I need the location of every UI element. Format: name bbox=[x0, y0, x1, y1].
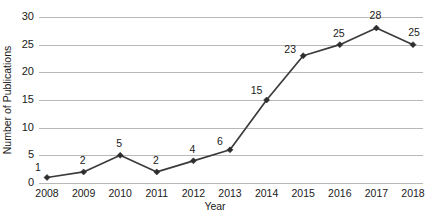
x-tick-label: 2017 bbox=[365, 187, 389, 199]
x-tick-label: 2016 bbox=[328, 187, 352, 199]
data-point-label: 28 bbox=[370, 9, 382, 21]
x-axis-title: Year bbox=[204, 200, 226, 212]
x-tick-label: 2015 bbox=[292, 187, 316, 199]
x-tick-label: 2012 bbox=[182, 187, 206, 199]
x-tick-label: 2018 bbox=[401, 187, 425, 199]
y-tick-label: 0 bbox=[28, 176, 34, 188]
x-tick-label: 2008 bbox=[35, 187, 59, 199]
data-point-marker bbox=[154, 169, 160, 175]
data-point-label: 6 bbox=[217, 135, 223, 147]
x-tick-label: 2010 bbox=[109, 187, 133, 199]
data-point-label: 23 bbox=[284, 43, 296, 55]
data-point-label: 2 bbox=[153, 154, 159, 166]
data-point-marker bbox=[81, 169, 87, 175]
data-point-label: 2 bbox=[80, 154, 86, 166]
data-point-marker bbox=[117, 152, 123, 158]
data-point-label: 25 bbox=[408, 26, 420, 38]
data-point-marker bbox=[44, 174, 50, 180]
y-tick-label: 20 bbox=[22, 65, 34, 77]
y-axis-title: Number of Publications bbox=[1, 46, 13, 155]
gridlines-group bbox=[39, 18, 423, 184]
y-tick-label: 15 bbox=[22, 93, 34, 105]
x-tick-label: 2009 bbox=[72, 187, 96, 199]
data-point-label: 5 bbox=[116, 137, 122, 149]
data-point-markers bbox=[44, 25, 416, 180]
y-tick-label: 30 bbox=[22, 10, 34, 22]
x-tick-label: 2011 bbox=[146, 187, 169, 199]
data-point-label: 25 bbox=[333, 27, 345, 39]
data-point-label: 1 bbox=[35, 161, 41, 173]
data-point-label: 15 bbox=[251, 84, 263, 96]
x-axis-tick-labels: 2008200920102011201220132014201520162017… bbox=[35, 187, 425, 199]
data-point-marker bbox=[190, 158, 196, 164]
data-point-marker bbox=[373, 25, 379, 31]
y-tick-label: 10 bbox=[22, 121, 34, 133]
y-tick-label: 25 bbox=[22, 38, 34, 50]
data-point-marker bbox=[410, 42, 416, 48]
chart-page: 051015202530 200820092010201120122013201… bbox=[0, 0, 436, 215]
data-point-marker bbox=[337, 42, 343, 48]
y-axis-tick-labels: 051015202530 bbox=[22, 10, 34, 188]
x-tick-label: 2013 bbox=[218, 187, 242, 199]
line-chart: 051015202530 200820092010201120122013201… bbox=[0, 0, 436, 215]
y-tick-label: 5 bbox=[28, 148, 34, 160]
data-point-label: 4 bbox=[189, 143, 195, 155]
x-tick-label: 2014 bbox=[255, 187, 279, 199]
